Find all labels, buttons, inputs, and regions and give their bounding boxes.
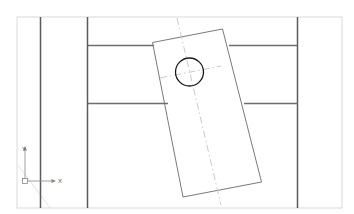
cad-drawing-viewport[interactable]: X Y bbox=[0, 0, 354, 214]
ucs-x-axis-label: X bbox=[58, 178, 62, 184]
cad-drawing-canvas[interactable]: X Y bbox=[0, 0, 354, 214]
ucs-y-axis-label: Y bbox=[22, 146, 26, 152]
